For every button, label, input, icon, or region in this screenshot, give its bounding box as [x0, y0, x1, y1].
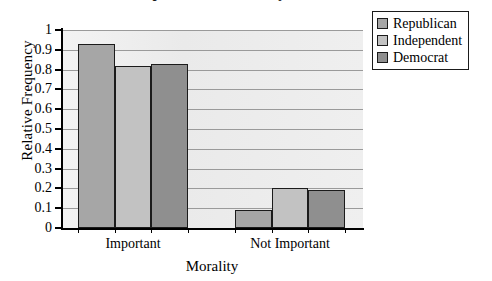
x-tick-mark [345, 228, 346, 233]
bar [308, 190, 345, 228]
chart-title: Importance of Morality [60, 0, 360, 3]
x-tick-mark [272, 228, 273, 233]
bar [235, 210, 272, 228]
x-axis-line [61, 228, 364, 230]
y-tick-label: 1 [12, 23, 52, 37]
y-tick-mark [55, 49, 62, 51]
x-tick-mark [188, 228, 189, 233]
y-tick-label: 0 [12, 221, 52, 235]
legend-label: Independent [393, 34, 462, 48]
y-tick-label: 0.2 [12, 181, 52, 195]
y-tick-label: 0.4 [12, 142, 52, 156]
bar [78, 44, 115, 228]
x-tick-mark [235, 228, 236, 233]
y-tick-mark [55, 29, 62, 31]
y-tick-label: 0.7 [12, 82, 52, 96]
y-tick-label: 0.9 [12, 43, 52, 57]
gridline [63, 30, 363, 31]
legend: RepublicanIndependentDemocrat [372, 11, 469, 70]
y-tick-mark [55, 207, 62, 209]
y-tick-label: 0.8 [12, 63, 52, 77]
legend-swatch-icon [377, 18, 388, 29]
x-tick-label: Important [53, 236, 213, 252]
y-tick-mark [55, 108, 62, 110]
legend-label: Democrat [393, 51, 448, 65]
y-tick-mark [55, 88, 62, 90]
x-tick-mark [151, 228, 152, 233]
x-tick-mark [115, 228, 116, 233]
y-tick-label: 0.6 [12, 102, 52, 116]
legend-item: Independent [377, 32, 462, 49]
legend-swatch-icon [377, 35, 388, 46]
y-tick-mark [55, 187, 62, 189]
plot-area [63, 30, 363, 228]
y-tick-label: 0.1 [12, 201, 52, 215]
legend-label: Republican [393, 17, 457, 31]
y-tick-label: 0.3 [12, 162, 52, 176]
x-tick-mark [78, 228, 79, 233]
x-tick-label: Not Important [210, 236, 370, 252]
legend-item: Democrat [377, 49, 462, 66]
bar-chart-figure: Importance of Morality Relative Frequenc… [0, 0, 492, 281]
x-axis-title: Morality [60, 258, 364, 275]
y-tick-label: 0.5 [12, 122, 52, 136]
y-tick-mark [55, 168, 62, 170]
bar [115, 66, 152, 228]
x-tick-mark [308, 228, 309, 233]
y-tick-mark [55, 128, 62, 130]
legend-swatch-icon [377, 52, 388, 63]
bar [151, 64, 188, 228]
legend-item: Republican [377, 15, 462, 32]
y-tick-mark [55, 69, 62, 71]
y-tick-mark [55, 227, 62, 229]
y-tick-mark [55, 148, 62, 150]
bar [272, 188, 309, 228]
